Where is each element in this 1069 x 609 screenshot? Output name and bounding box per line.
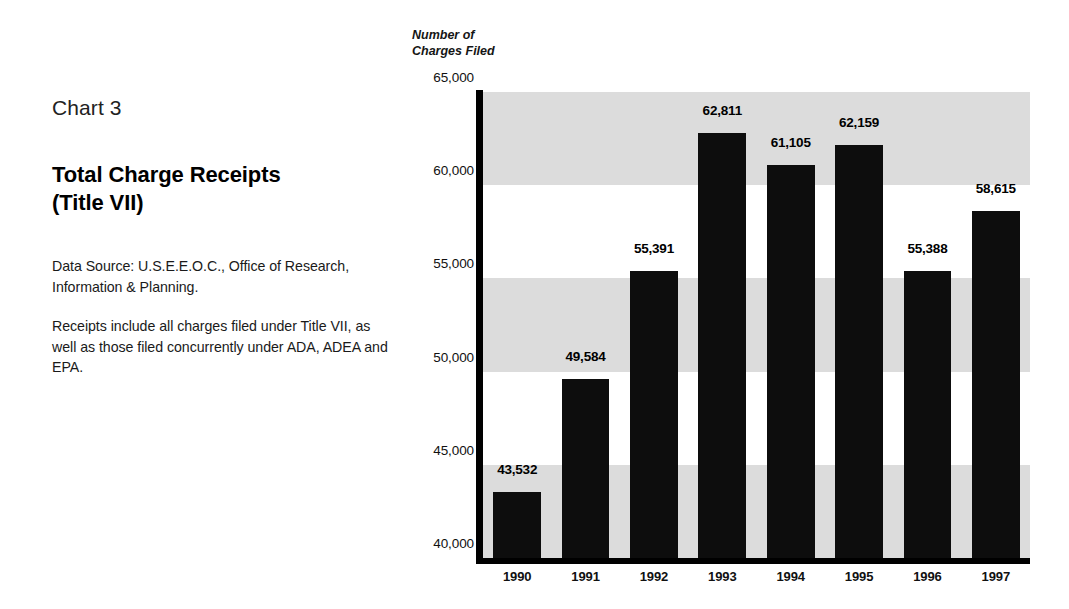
bar-value-1991: 49,584 <box>566 349 606 364</box>
x-tick-1997: 1997 <box>982 569 1011 584</box>
y-tick-60000: 60,000 <box>433 163 474 178</box>
bar-slot-1991: 49,584 <box>562 92 610 558</box>
bar-1992[interactable] <box>630 271 678 558</box>
bar-value-1990: 43,532 <box>497 462 537 477</box>
bar-1994[interactable] <box>767 165 815 558</box>
bar-slot-1992: 55,391 <box>630 92 678 558</box>
y-axis-caption: Number of Charges Filed <box>412 28 495 59</box>
bar-slot-1990: 43,532 <box>493 92 541 558</box>
chart-notes: Data Source: U.S.E.E.O.C., Office of Res… <box>52 256 392 378</box>
x-tick-1992: 1992 <box>640 569 669 584</box>
bar-1993[interactable] <box>698 133 746 558</box>
bar-1990[interactable] <box>493 492 541 558</box>
data-source-note: Data Source: U.S.E.E.O.C., Office of Res… <box>52 256 392 297</box>
bar-1996[interactable] <box>904 271 952 558</box>
bar-1995[interactable] <box>835 145 883 558</box>
bar-value-1993: 62,811 <box>703 103 742 118</box>
x-tick-1990: 1990 <box>503 569 532 584</box>
x-tick-1996: 1996 <box>913 569 942 584</box>
x-tick-1993: 1993 <box>708 569 737 584</box>
plot-area: 40,00045,00050,00055,00060,00065,000 43,… <box>483 92 1030 558</box>
chart-title-line-2: (Title VII) <box>52 189 392 217</box>
bar-value-1994: 61,105 <box>771 135 811 150</box>
x-tick-1995: 1995 <box>845 569 874 584</box>
chart-title-line-1: Total Charge Receipts <box>52 162 281 187</box>
y-tick-45000: 45,000 <box>433 442 474 457</box>
y-tick-55000: 55,000 <box>433 256 474 271</box>
x-axis-tick-labels: 19901991199219931994199519961997 <box>483 569 1030 593</box>
bar-1991[interactable] <box>562 379 610 558</box>
receipts-definition-note: Receipts include all charges filed under… <box>52 316 392 378</box>
y-tick-50000: 50,000 <box>433 349 474 364</box>
chart-description-panel: Chart 3 Total Charge Receipts (Title VII… <box>52 96 392 378</box>
bar-series: 43,53249,58455,39162,81161,10562,15955,3… <box>483 92 1030 558</box>
bar-chart: Number of Charges Filed 40,00045,00050,0… <box>412 28 1042 598</box>
y-tick-65000: 65,000 <box>433 70 474 85</box>
x-tick-1991: 1991 <box>571 569 600 584</box>
bar-value-1997: 58,615 <box>976 181 1016 196</box>
bar-slot-1997: 58,615 <box>972 92 1020 558</box>
bar-slot-1995: 62,159 <box>835 92 883 558</box>
x-tick-1994: 1994 <box>776 569 805 584</box>
chart-number-label: Chart 3 <box>52 96 392 119</box>
bar-slot-1993: 62,811 <box>698 92 746 558</box>
bar-value-1995: 62,159 <box>839 115 879 130</box>
y-tick-40000: 40,000 <box>433 536 474 551</box>
chart-title: Total Charge Receipts (Title VII) <box>52 161 392 216</box>
bar-slot-1996: 55,388 <box>904 92 952 558</box>
bar-slot-1994: 61,105 <box>767 92 815 558</box>
x-axis-line <box>476 558 1030 564</box>
y-axis-caption-line-1: Number of <box>412 28 495 44</box>
bar-value-1996: 55,388 <box>907 241 947 256</box>
y-axis-caption-line-2: Charges Filed <box>412 44 495 60</box>
y-axis-line <box>476 90 483 562</box>
bar-1997[interactable] <box>972 211 1020 558</box>
bar-value-1992: 55,391 <box>634 241 674 256</box>
